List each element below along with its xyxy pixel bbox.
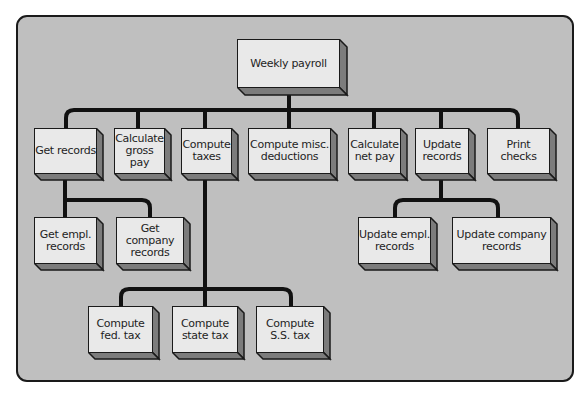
box-label-update-empl-records: Update empl. records <box>358 217 431 264</box>
box-label-compute-ss-tax: Compute S.S. tax <box>256 306 324 353</box>
box-label-get-company-records: Get company records <box>116 217 184 264</box>
box-label-compute-taxes: Compute taxes <box>181 128 232 174</box>
box-label-update-records: Update records <box>415 128 469 174</box>
box-label-compute-fed-tax: Compute fed. tax <box>88 306 153 353</box>
box-label-calculate-net-pay: Calculate net pay <box>348 128 401 174</box>
box-label-compute-state-tax: Compute state tax <box>172 306 238 353</box>
box-label-get-empl-records: Get empl. records <box>34 217 97 264</box>
box-label-print-checks: Print checks <box>487 128 550 174</box>
box-label-weekly-payroll: Weekly payroll <box>237 39 340 88</box>
box-label-compute-misc-deductions: Compute misc. deductions <box>248 128 331 174</box>
box-label-calculate-gross-pay: Calculate gross pay <box>114 128 165 174</box>
box-label-update-company-records: Update company records <box>452 217 551 264</box>
box-label-get-records: Get records <box>34 128 97 174</box>
